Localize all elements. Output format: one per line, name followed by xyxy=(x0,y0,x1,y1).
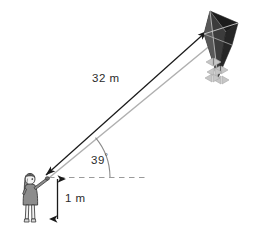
girl-figure-icon xyxy=(23,173,50,222)
angle-value: 39 xyxy=(91,154,105,166)
height-label: 1 m xyxy=(65,192,86,204)
diagram-canvas xyxy=(0,0,255,231)
string-length-label: 32 m xyxy=(92,72,120,84)
angle-label: 39° xyxy=(91,152,108,166)
string-measurement-arrow xyxy=(46,31,207,175)
degree-symbol: ° xyxy=(105,152,108,161)
kite-trigonometry-diagram: 32 m 39° 1 m xyxy=(0,0,255,231)
kite-tail-icon xyxy=(205,58,229,84)
kite-string-line xyxy=(50,44,212,177)
